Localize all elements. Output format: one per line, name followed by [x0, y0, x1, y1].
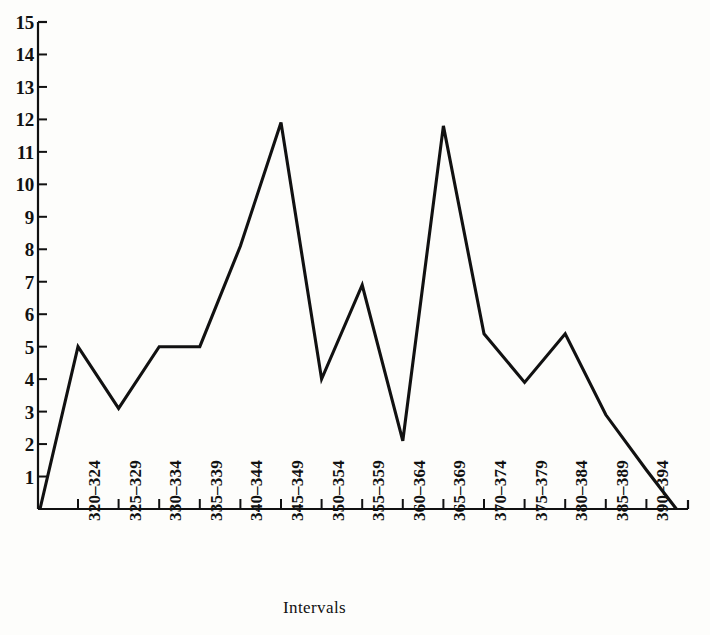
x-axis-tick-label: 350–354 [329, 460, 349, 521]
data-series-line [40, 123, 676, 509]
frequency-polygon-chart: 151413121110987654321 320–324325–329330–… [0, 0, 710, 635]
y-axis-tick-label: 6 [0, 305, 34, 324]
x-axis-tick-label: 360–364 [410, 460, 430, 521]
y-axis-tick-label: 7 [0, 273, 34, 292]
x-axis-tick-label: 370–374 [491, 460, 511, 521]
x-axis-tick-label: 330–334 [166, 460, 186, 521]
y-axis-tick-label: 4 [0, 370, 34, 389]
y-axis-tick-label: 2 [0, 435, 34, 454]
x-axis-tick-label: 355–359 [369, 460, 389, 521]
y-axis-tick-label: 8 [0, 240, 34, 259]
y-axis-tick-label: 15 [0, 13, 34, 32]
y-axis-tick-label: 3 [0, 403, 34, 422]
y-axis-tick-label: 13 [0, 78, 34, 97]
y-axis-tick-label: 12 [0, 110, 34, 129]
x-axis-tick-label: 365–369 [450, 460, 470, 521]
x-axis-tick-label: 375–379 [532, 460, 552, 521]
x-axis-tick-label: 390–394 [653, 460, 673, 521]
x-axis-tick-label: 335–339 [207, 460, 227, 521]
x-axis-title: Intervals [283, 598, 346, 618]
x-axis-tick-label: 325–329 [126, 460, 146, 521]
y-axis-tick-label: 14 [0, 45, 34, 64]
y-axis-tick-label: 5 [0, 338, 34, 357]
x-axis-tick-label: 340–344 [247, 460, 267, 521]
y-axis-tick-label: 11 [0, 143, 34, 162]
x-axis-tick-label: 380–384 [572, 460, 592, 521]
y-axis-tick-label: 9 [0, 208, 34, 227]
y-axis-tick-label: 10 [0, 175, 34, 194]
x-axis-tick-label: 345–349 [288, 460, 308, 521]
x-axis-tick-label: 385–389 [613, 460, 633, 521]
y-axis-tick-label: 1 [0, 468, 34, 487]
chart-plot-area [0, 0, 710, 635]
x-axis-tick-label: 320–324 [85, 460, 105, 521]
